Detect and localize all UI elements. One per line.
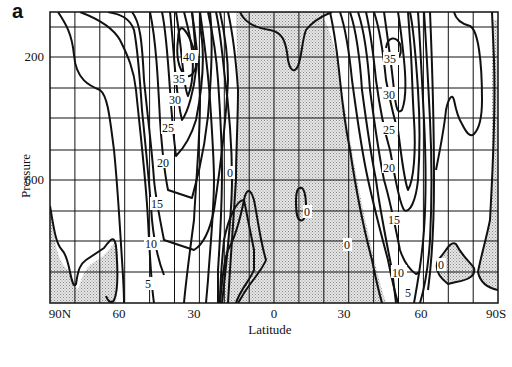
x-tick-30n: 30 xyxy=(174,306,214,322)
contour-label-10-sh: 10 xyxy=(392,266,404,280)
x-tick-90n: 90N xyxy=(40,306,80,322)
x-tick-90s: 90S xyxy=(476,306,512,322)
contour-label-30-nh: 30 xyxy=(169,93,181,107)
x-tick-0: 0 xyxy=(254,306,294,322)
y-axis-label: Pressure xyxy=(18,146,34,206)
contour-label-0-b: 0 xyxy=(304,205,310,219)
contour-label-35-sh: 35 xyxy=(384,52,396,66)
x-tick-30s: 30 xyxy=(324,306,364,322)
x-tick-60n: 60 xyxy=(99,306,139,322)
contour-label-20-sh: 20 xyxy=(383,161,395,175)
contour-label-30-sh: 30 xyxy=(383,88,395,102)
contour-label-20-nh: 20 xyxy=(157,156,169,170)
x-tick-60s: 60 xyxy=(401,306,441,322)
x-axis-label: Latitude xyxy=(230,322,310,338)
contour-label-35-nh: 35 xyxy=(173,72,185,86)
contour-label-0-d: 0 xyxy=(438,258,444,272)
contour-label-15-sh: 15 xyxy=(388,213,400,227)
contour-label-15-nh: 15 xyxy=(151,197,163,211)
contour-label-25-sh: 25 xyxy=(383,123,395,137)
contour-label-0-c: 0 xyxy=(344,238,350,252)
contour-label-25-nh: 25 xyxy=(162,121,174,135)
contour-label-40: 40 xyxy=(183,50,195,64)
contour-label-5-sh: 5 xyxy=(405,286,411,300)
y-tick-200: 200 xyxy=(4,49,44,65)
contour-label-5-nh: 5 xyxy=(145,277,151,291)
contour-label-0-a: 0 xyxy=(227,166,233,180)
contour-label-10-nh: 10 xyxy=(145,237,157,251)
